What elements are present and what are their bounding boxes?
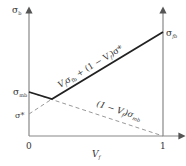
x-axis-label: Vf xyxy=(92,149,102,161)
y-axis-label: σb xyxy=(12,5,21,16)
svg-text:Vfσfb + (1 − Vf)σ*: Vfσfb + (1 − Vf)σ* xyxy=(56,43,126,92)
sigma-fb-label: σfb xyxy=(166,28,177,40)
dashed-line-formula: (1 − Vf)σmb xyxy=(95,98,143,124)
sigma-mb-label: σmb xyxy=(13,87,27,98)
dashed-line-sigma-star xyxy=(29,99,52,114)
solid-line-formula: Vfσfb + (1 − Vf)σ* xyxy=(56,43,126,92)
x-tick-0: 0 xyxy=(26,141,32,151)
svg-text:(1 − Vf)σmb: (1 − Vf)σmb xyxy=(95,98,143,124)
x-tick-1: 1 xyxy=(160,141,166,151)
sigma-star-label: σ* xyxy=(15,111,24,120)
diagram-canvas: σb σfb σmb σ* 0 1 Vf Vfσfb + (1 − Vf)σ* … xyxy=(0,0,186,166)
